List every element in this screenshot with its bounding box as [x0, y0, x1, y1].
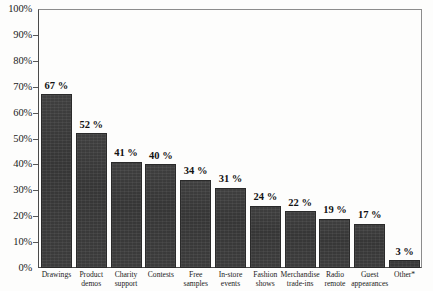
bar[interactable] — [250, 206, 281, 268]
y-axis-tick-label: 90% — [13, 30, 32, 41]
bar-slot: 19 % — [319, 9, 350, 268]
bar-value-label: 22 % — [288, 198, 312, 209]
bar[interactable] — [111, 162, 142, 268]
bar-slot: 31 % — [215, 9, 246, 268]
bar-value-label: 41 % — [114, 148, 138, 159]
category-label-line2: support — [86, 279, 166, 288]
bar-value-label: 19 % — [323, 205, 347, 216]
y-axis-tick-label: 40% — [13, 159, 32, 170]
bar-value-label: 31 % — [219, 174, 243, 185]
bar[interactable] — [354, 224, 385, 268]
y-axis-tick-label: 80% — [13, 56, 32, 67]
bar[interactable] — [215, 188, 246, 268]
bar-value-label: 40 % — [149, 151, 173, 162]
bar-slot: 17 % — [354, 9, 385, 268]
bar[interactable] — [76, 133, 107, 268]
bar[interactable] — [389, 260, 420, 268]
bar-value-label: 24 % — [254, 192, 278, 203]
x-axis-category-label: Other* — [365, 270, 433, 279]
bar-value-label: 17 % — [358, 210, 382, 221]
bar-slot: 52 % — [76, 9, 107, 268]
bar-slot: 3 % — [389, 9, 420, 268]
y-axis-tick-label: 30% — [13, 185, 32, 196]
bar-value-label: 67 % — [45, 81, 69, 92]
bar-slot: 41 % — [111, 9, 142, 268]
y-axis: 0%10%20%30%40%50%60%70%80%90%100% — [0, 0, 34, 291]
bar-slot: 40 % — [145, 9, 176, 268]
y-axis-tick-label: 20% — [13, 211, 32, 222]
bar[interactable] — [145, 164, 176, 268]
bar[interactable] — [41, 94, 72, 268]
category-label-line1: Other* — [394, 270, 415, 279]
bar-chart: 0%10%20%30%40%50%60%70%80%90%100% 67 %52… — [0, 0, 433, 291]
y-axis-tick-label: 10% — [13, 237, 32, 248]
y-axis-tick-label: 70% — [13, 81, 32, 92]
bar-slot: 24 % — [250, 9, 281, 268]
y-axis-tick-label: 50% — [13, 133, 32, 144]
bar[interactable] — [285, 211, 316, 268]
bar[interactable] — [319, 219, 350, 268]
bar-value-label: 52 % — [79, 120, 103, 131]
y-axis-tick-label: 100% — [8, 4, 32, 15]
bar[interactable] — [180, 180, 211, 268]
bar-slot: 67 % — [41, 9, 72, 268]
bars-container: 67 %52 %41 %40 %34 %31 %24 %22 %19 %17 %… — [39, 9, 422, 268]
category-label-line2: appearances — [330, 279, 410, 288]
bar-slot: 22 % — [285, 9, 316, 268]
bar-value-label: 3 % — [395, 247, 413, 258]
x-axis-category-labels: DrawingsProductdemosCharitysupportContes… — [39, 270, 422, 291]
bar-value-label: 34 % — [184, 166, 208, 177]
y-axis-tick-label: 60% — [13, 107, 32, 118]
bar-slot: 34 % — [180, 9, 211, 268]
